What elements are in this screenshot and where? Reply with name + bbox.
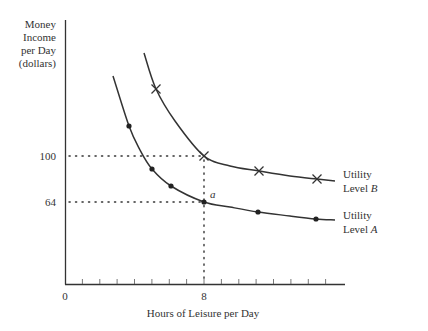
svg-text:per Day: per Day <box>21 44 57 56</box>
utility-level-b-label: Utility Level B <box>343 168 378 194</box>
indifference-curve-chart: Money Income per Day (dollars) 0 8 100 6… <box>0 0 428 331</box>
svg-text:Income: Income <box>23 31 56 43</box>
svg-text:(dollars): (dollars) <box>19 57 57 70</box>
svg-text:Utility: Utility <box>343 209 372 221</box>
dotted-guides <box>69 156 204 283</box>
dot-marker <box>168 183 173 188</box>
dot-marker <box>255 209 260 214</box>
dot-marker <box>313 216 318 221</box>
utility-level-b-curve <box>144 53 335 181</box>
utility-level-b-markers <box>152 85 322 184</box>
dot-marker <box>149 166 154 171</box>
svg-text:Utility: Utility <box>343 168 372 180</box>
dot-marker <box>201 199 206 204</box>
y-tick-label-64: 64 <box>45 196 57 208</box>
dot-marker <box>126 123 131 128</box>
y-axis-label: Money Income per Day (dollars) <box>19 18 57 70</box>
svg-text:Money: Money <box>25 18 57 30</box>
x-tick-label-0: 0 <box>62 290 68 302</box>
point-a-label: a <box>210 188 216 200</box>
x-tick-label-8: 8 <box>201 290 207 302</box>
svg-text:Level A: Level A <box>343 223 378 235</box>
utility-level-a-label: Utility Level A <box>343 209 378 235</box>
y-tick-label-100: 100 <box>40 150 57 162</box>
utility-level-a-curve <box>113 76 335 220</box>
svg-text:Level B: Level B <box>343 182 378 194</box>
x-axis-label: Hours of Leisure per Day <box>147 307 260 319</box>
x-axis-ticks <box>82 279 325 284</box>
